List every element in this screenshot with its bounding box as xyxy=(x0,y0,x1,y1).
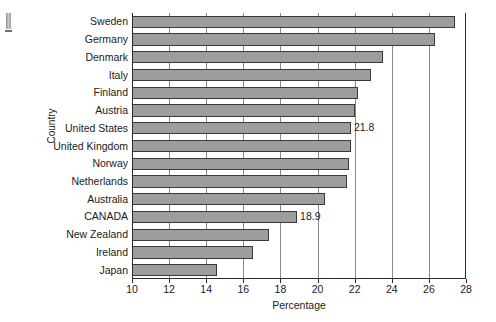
category-label-united-kingdom: United Kingdom xyxy=(36,141,128,152)
category-label-column: SwedenGermanyDenmarkItalyFinlandAustriaU… xyxy=(36,13,128,279)
x-axis-tick-labels: 10121416182022242628 xyxy=(132,283,466,297)
scan-artifact xyxy=(6,13,11,29)
x-tick-label-26: 26 xyxy=(423,283,435,295)
category-label-austria: Austria xyxy=(36,105,128,116)
category-label-germany: Germany xyxy=(36,34,128,45)
x-tick-label-16: 16 xyxy=(237,283,249,295)
category-label-canada: CANADA xyxy=(36,211,128,222)
x-tick-label-28: 28 xyxy=(460,283,472,295)
category-label-finland: Finland xyxy=(36,87,128,98)
x-tick-label-22: 22 xyxy=(349,283,361,295)
plot-frame xyxy=(132,13,466,279)
category-label-ireland: Ireland xyxy=(36,247,128,258)
category-label-netherlands: Netherlands xyxy=(36,176,128,187)
category-label-sweden: Sweden xyxy=(36,16,128,27)
x-tick-label-14: 14 xyxy=(200,283,212,295)
x-tick-label-24: 24 xyxy=(386,283,398,295)
bar-chart: Country SwedenGermanyDenmarkItalyFinland… xyxy=(0,0,496,322)
category-label-italy: Italy xyxy=(36,70,128,81)
category-label-denmark: Denmark xyxy=(36,52,128,63)
category-label-norway: Norway xyxy=(36,158,128,169)
x-tick-label-20: 20 xyxy=(312,283,324,295)
category-label-australia: Australia xyxy=(36,194,128,205)
x-axis-title: Percentage xyxy=(132,299,466,311)
plot-area: 21.818.9 xyxy=(132,13,466,279)
category-label-new-zealand: New Zealand xyxy=(36,229,128,240)
x-tick-label-12: 12 xyxy=(163,283,175,295)
x-tick-label-18: 18 xyxy=(275,283,287,295)
category-label-japan: Japan xyxy=(36,265,128,276)
category-label-united-states: United States xyxy=(36,123,128,134)
x-tick-label-10: 10 xyxy=(126,283,138,295)
